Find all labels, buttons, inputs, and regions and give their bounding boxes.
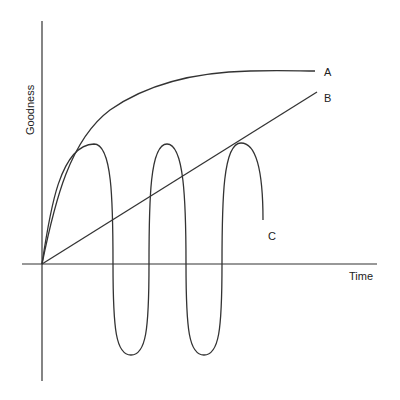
diagram-canvas: A B C Time Goodness — [0, 0, 400, 400]
curve-b-label: B — [324, 92, 331, 104]
x-axis-label: Time — [349, 270, 373, 282]
curve-c — [42, 143, 263, 355]
curve-a-label: A — [324, 66, 332, 78]
curve-c-label: C — [268, 230, 276, 242]
y-axis-label: Goodness — [24, 84, 36, 135]
